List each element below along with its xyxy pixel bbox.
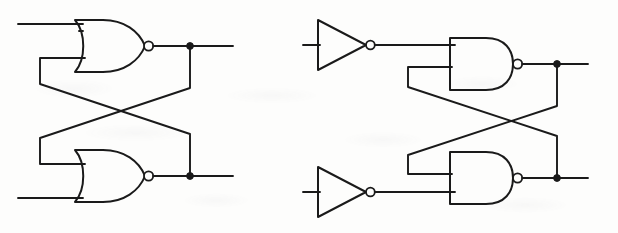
- nor-cross-wire-bottom-to-top: [40, 58, 190, 176]
- nor-gate-bottom-body: [75, 150, 145, 202]
- nand-gate-bottom-inversion-bubble: [513, 173, 522, 182]
- circuit-diagram-canvas: [0, 0, 618, 233]
- nand-gate-bottom-body: [450, 152, 513, 204]
- nor-latch-circuit: [18, 20, 233, 202]
- nor-cross-wire-top-to-bottom: [40, 46, 190, 164]
- nand-latch-circuit: [303, 20, 588, 217]
- nor-gate-top-body: [75, 20, 145, 72]
- nor-gate-top-inversion-bubble: [144, 41, 153, 50]
- inverter-bottom-inversion-bubble: [366, 188, 375, 197]
- nand-gate-top-inversion-bubble: [513, 59, 522, 68]
- nand-cross-wire-bottom-to-top: [408, 67, 557, 178]
- nand-cross-wire-top-to-bottom: [408, 64, 557, 174]
- inverter-top-body: [318, 20, 366, 70]
- inverter-top-inversion-bubble: [366, 41, 375, 50]
- inverter-bottom-body: [318, 167, 366, 217]
- logic-circuit-figure: [0, 0, 618, 233]
- nor-gate-bottom-inversion-bubble: [144, 171, 153, 180]
- nand-gate-top-body: [450, 38, 513, 90]
